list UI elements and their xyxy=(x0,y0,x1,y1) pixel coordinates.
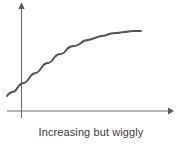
y-axis-arrow-icon xyxy=(18,3,24,10)
figure-container: Increasing but wiggly xyxy=(0,0,182,148)
x-axis-arrow-icon xyxy=(168,108,174,115)
increasing-wiggly-curve xyxy=(7,31,141,96)
figure-caption: Increasing but wiggly xyxy=(0,126,182,139)
